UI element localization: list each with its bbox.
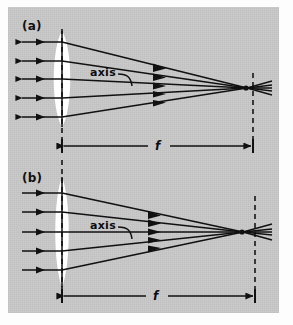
axis-label-a: axis	[90, 66, 116, 79]
panel-b-group	[22, 160, 272, 303]
lens-diagram-svg	[0, 0, 293, 325]
focal-length-dimension-b	[62, 289, 255, 303]
focal-length-label-a: f	[155, 139, 160, 153]
focal-point-b	[239, 229, 244, 234]
panel-a-group	[22, 29, 272, 153]
axis-label-b: axis	[90, 219, 116, 232]
refracted-ray-b-5	[62, 232, 243, 270]
panel-label-a: (a)	[22, 19, 42, 33]
focal-point-a	[243, 85, 248, 90]
axis-leader-line-b	[118, 227, 132, 239]
lens-focal-length-figure: (a) (b) axis axis f f	[0, 0, 293, 325]
axis-leader-line-a	[118, 74, 132, 86]
panel-label-b: (b)	[22, 171, 42, 185]
focal-length-label-b: f	[153, 289, 158, 303]
